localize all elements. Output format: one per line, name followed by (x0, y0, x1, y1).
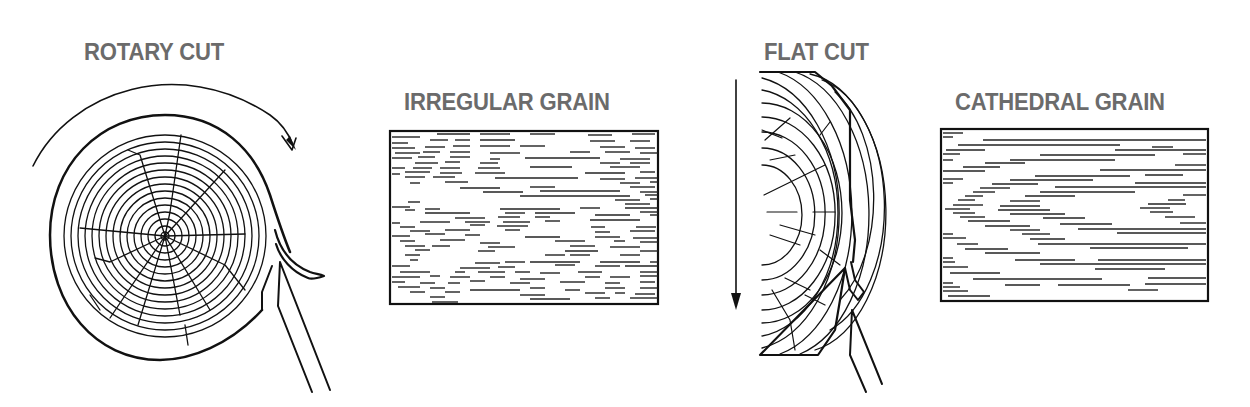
radial-checks (80, 135, 245, 345)
flitch-outline (760, 72, 855, 355)
rotary-cut-illustration (33, 85, 330, 392)
rotation-arrow-icon (33, 85, 293, 166)
cathedral-grain-sheet (941, 129, 1208, 301)
irregular-grain-sheet (390, 131, 658, 304)
knife-blade (278, 262, 330, 392)
growth-rings (762, 72, 886, 354)
veneer-ribbon (275, 230, 324, 279)
knife-blade (850, 310, 882, 392)
arrowhead-icon (731, 293, 741, 310)
flat-cut-illustration (731, 72, 886, 392)
diagram-canvas (0, 0, 1250, 407)
